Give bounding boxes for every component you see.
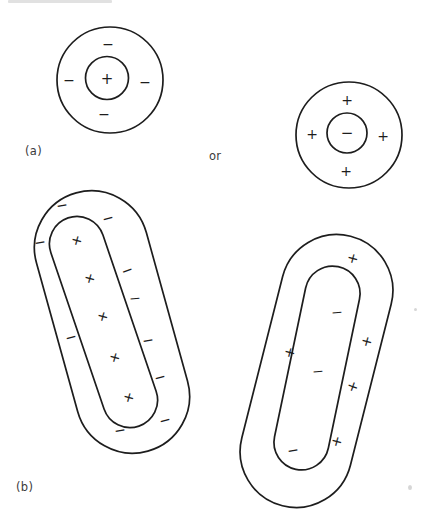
plus-sign: + — [345, 376, 361, 395]
figure-canvas: +−−−−−+++++++++−−−−−−−−−−−−−+++++ (a) or… — [0, 0, 422, 530]
minus-sign: − — [55, 196, 69, 214]
minus-sign: − — [128, 290, 141, 307]
plus-sign: + — [341, 92, 353, 108]
charged-rod-positive-shell: −−−+++++ — [228, 223, 405, 520]
plus-sign: + — [69, 231, 84, 249]
minus-sign: − — [141, 331, 155, 349]
minus-sign: − — [341, 124, 354, 142]
plus-sign: + — [95, 307, 110, 325]
plus-sign: + — [82, 269, 97, 287]
plus-sign: + — [282, 343, 297, 361]
minus-sign: − — [113, 421, 127, 439]
plus-sign: + — [306, 126, 318, 142]
panel-a-label: (a) — [25, 144, 42, 158]
scan-speck — [414, 308, 417, 311]
minus-sign: − — [100, 209, 115, 227]
panel-b-label: (b) — [16, 480, 33, 494]
minus-sign: − — [102, 36, 114, 52]
plus-sign: + — [121, 388, 136, 406]
minus-sign: − — [152, 368, 167, 386]
minus-sign: − — [157, 411, 172, 429]
plus-sign: + — [359, 332, 374, 350]
charged-rod-negative-shell: +++++−−−−−−−−−− — [21, 178, 202, 467]
or-label: or — [209, 149, 221, 163]
minus-sign: − — [98, 106, 110, 122]
plus-sign: + — [107, 348, 122, 366]
plus-sign: + — [345, 249, 360, 267]
plus-sign: + — [377, 128, 389, 144]
minus-sign: − — [119, 260, 135, 279]
minus-sign: − — [311, 363, 324, 380]
charged-sphere-negative-core: −++++ — [296, 82, 402, 188]
plus-sign: + — [101, 70, 114, 88]
minus-sign: − — [63, 72, 75, 88]
charged-sphere-positive-core: +−−−− — [57, 27, 163, 133]
minus-sign: − — [63, 328, 78, 346]
minus-sign: − — [33, 233, 47, 251]
scan-speck — [408, 485, 412, 490]
minus-sign: − — [330, 304, 343, 321]
plus-sign: + — [340, 163, 352, 179]
minus-sign: − — [139, 74, 151, 90]
charge-diagram: +−−−−−+++++++++−−−−−−−−−−−−−+++++ — [0, 0, 422, 530]
minus-sign: − — [286, 441, 300, 459]
